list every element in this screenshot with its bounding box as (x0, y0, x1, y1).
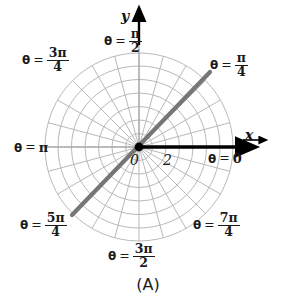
theta-symbol: θ (14, 142, 22, 154)
theta-symbol: θ (210, 59, 218, 71)
angle-label-zero: θ = 0 (208, 152, 242, 165)
equals-sign: = (114, 35, 126, 48)
fraction: 3π 2 (133, 243, 155, 270)
radial-tick-label-2: 2 (163, 152, 172, 168)
fraction-denominator: 2 (139, 257, 148, 270)
angle-value: π (39, 141, 49, 154)
fraction: π 4 (235, 52, 248, 79)
equals-sign: = (218, 152, 230, 165)
angle-label-pi-over-4: θ = π 4 (210, 52, 248, 79)
origin-label: 0 (130, 152, 139, 168)
fraction-denominator: 4 (51, 226, 60, 239)
figure-caption: (A) (0, 275, 296, 294)
angle-label-5pi-over-4: θ = 5π 4 (20, 212, 67, 239)
theta-symbol: θ (208, 153, 216, 165)
polar-coordinate-figure: y x 0 2 θ = π 2 θ = 3π 4 θ = π 4 θ = π θ… (0, 0, 296, 305)
origin-point (135, 143, 144, 152)
equals-sign: = (32, 54, 44, 67)
equals-sign: = (203, 219, 215, 232)
fraction-denominator: 4 (53, 61, 62, 74)
fraction: 3π 4 (47, 47, 69, 74)
equals-sign: = (30, 219, 42, 232)
fraction: 5π 4 (45, 212, 67, 239)
equals-sign: = (118, 250, 130, 263)
angle-label-3pi-over-4: θ = 3π 4 (22, 47, 69, 74)
fraction-denominator: 4 (237, 66, 246, 79)
fraction: 7π 4 (218, 212, 240, 239)
theta-symbol: θ (22, 54, 30, 66)
theta-symbol: θ (104, 35, 112, 47)
angle-label-3pi-over-2: θ = 3π 2 (108, 243, 155, 270)
theta-symbol: θ (20, 219, 28, 231)
theta-symbol: θ (108, 250, 116, 262)
angle-label-7pi-over-4: θ = 7π 4 (193, 212, 240, 239)
equals-sign: = (220, 59, 232, 72)
angle-label-pi-over-2: θ = π 2 (104, 28, 142, 55)
theta-symbol: θ (193, 219, 201, 231)
fraction-denominator: 2 (131, 42, 140, 55)
y-axis-label: y (121, 8, 129, 24)
fraction-denominator: 4 (224, 226, 233, 239)
x-axis-label: x (245, 127, 253, 143)
angle-label-pi: θ = π (14, 141, 48, 154)
angle-value: 0 (233, 152, 242, 165)
fraction: π 2 (129, 28, 142, 55)
equals-sign: = (24, 141, 36, 154)
